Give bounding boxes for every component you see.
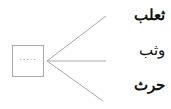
branch-line-bottom (47, 61, 103, 101)
branch-word-3: حرث (134, 78, 165, 93)
branch-word-1: ثعلب (134, 8, 165, 23)
blank-placeholder: ..... (13, 53, 43, 62)
branch-word-2: وثب (139, 43, 165, 58)
branch-line-top (47, 16, 106, 61)
